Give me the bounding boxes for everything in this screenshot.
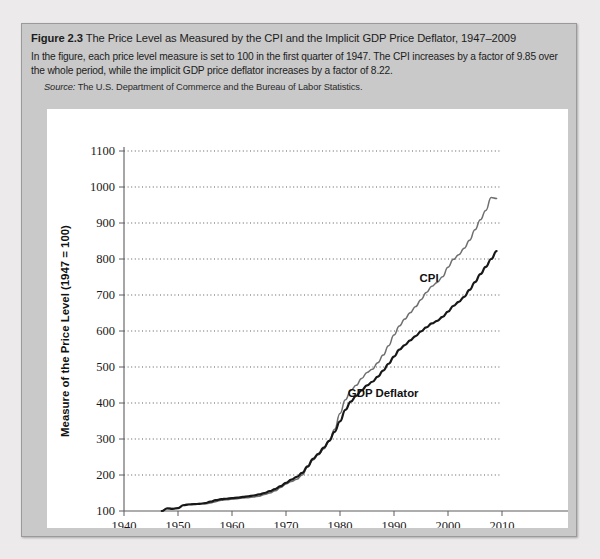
y-tick-label: 400 <box>96 396 115 410</box>
figure-container: Figure 2.3 The Price Level as Measured b… <box>21 23 577 537</box>
figure-source: Source: The U.S. Department of Commerce … <box>44 81 569 93</box>
y-axis-title: Measure of the Price Level (1947 = 100) <box>59 225 71 437</box>
x-tick-label: 1960 <box>220 519 245 528</box>
figure-title-text: The Price Level as Measured by the CPI a… <box>86 32 516 44</box>
y-tick-label: 200 <box>96 468 115 482</box>
source-label: Source: <box>44 82 75 92</box>
y-tick-label: 100 <box>96 504 115 518</box>
x-tick-label: 1950 <box>166 519 191 528</box>
figure-caption: Figure 2.3 The Price Level as Measured b… <box>31 31 569 93</box>
x-tick-label: 1970 <box>274 519 299 528</box>
x-tick-label: 2010 <box>490 519 515 528</box>
series-line-cpi <box>162 197 497 511</box>
price-level-line-chart: 10020030040050060070080090010001100 1940… <box>47 109 568 528</box>
x-tick-label: 2000 <box>436 519 461 528</box>
series-annotation-cpi: CPI <box>420 272 439 284</box>
y-tick-label: 700 <box>96 288 115 302</box>
y-tick-label: 1000 <box>90 180 115 194</box>
y-axis-tick-group: 10020030040050060070080090010001100 <box>90 144 124 518</box>
x-tick-label: 1990 <box>382 519 407 528</box>
x-tick-label: 1980 <box>328 519 353 528</box>
y-tick-label: 1100 <box>90 144 115 158</box>
x-axis-tick-group: 19401950196019701980199020002010 <box>112 511 515 528</box>
y-tick-label: 600 <box>96 324 115 338</box>
series-annotation-gdp-deflator: GDP Deflator <box>348 387 419 399</box>
source-text: The U.S. Department of Commerce and the … <box>75 82 362 92</box>
figure-title-line: Figure 2.3 The Price Level as Measured b… <box>31 31 569 46</box>
y-tick-label: 800 <box>96 252 115 266</box>
figure-description: In the figure, each price level measure … <box>31 50 569 78</box>
y-tick-label: 300 <box>96 432 115 446</box>
series-line-gdp-deflator <box>162 251 497 511</box>
figure-number: Figure 2.3 <box>31 32 83 44</box>
y-tick-label: 500 <box>96 360 115 374</box>
data-series-group <box>162 197 497 511</box>
x-tick-label: 1940 <box>112 519 137 528</box>
y-tick-label: 900 <box>96 216 115 230</box>
chart-plot-panel: 10020030040050060070080090010001100 1940… <box>47 109 568 528</box>
